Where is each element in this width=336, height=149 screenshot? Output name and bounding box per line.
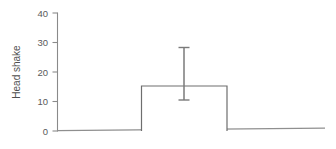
y-tick-label-20: 20 bbox=[37, 67, 48, 78]
y-tick-label-10: 10 bbox=[37, 96, 48, 107]
y-axis-title: Head shake bbox=[11, 45, 22, 99]
chart-figure: 40 30 20 10 0 Head shake bbox=[0, 0, 336, 149]
y-tick-label-40: 40 bbox=[37, 8, 48, 19]
bar-chart-canvas: 40 30 20 10 0 Head shake bbox=[0, 0, 336, 149]
y-tick-label-30: 30 bbox=[37, 37, 48, 48]
y-tick-label-0: 0 bbox=[43, 126, 48, 137]
